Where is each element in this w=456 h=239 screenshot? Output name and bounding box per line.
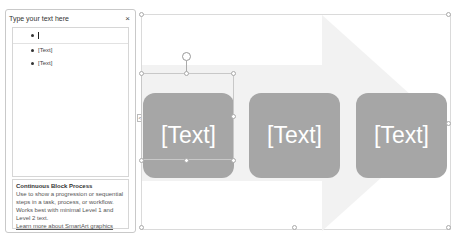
shape-handle-top-left[interactable]	[139, 71, 144, 76]
layout-description: Continuous Block Process Use to show a p…	[12, 179, 129, 229]
text-pane-title: Type your text here	[9, 15, 69, 22]
shape-handle-bottom[interactable]	[184, 158, 189, 163]
list-item[interactable]: [Text]	[31, 60, 52, 66]
shape-handle-top[interactable]	[184, 71, 189, 76]
text-pane-list[interactable]: [Text] [Text]	[12, 27, 129, 177]
resize-handle-top-left[interactable]	[139, 12, 144, 17]
text-pane: Type your text here × [Text] [Text] Cont…	[5, 9, 136, 233]
divider	[13, 43, 128, 44]
list-item-text: [Text]	[38, 47, 52, 53]
shape-handle-bottom-right[interactable]	[231, 158, 236, 163]
rotate-handle-icon[interactable]	[182, 52, 191, 61]
layout-name: Continuous Block Process	[16, 182, 125, 190]
process-block-1[interactable]: [Text]	[143, 93, 234, 178]
resize-handle-bottom-right[interactable]	[446, 225, 451, 230]
resize-handle-bottom-left[interactable]	[139, 225, 144, 230]
bullet-icon	[31, 34, 34, 37]
text-cursor	[38, 32, 39, 39]
shape-handle-bottom-left[interactable]	[139, 158, 144, 163]
process-block-2[interactable]: [Text]	[249, 93, 340, 178]
list-item[interactable]	[31, 32, 39, 39]
bullet-icon	[31, 62, 34, 65]
close-icon[interactable]: ×	[125, 14, 130, 23]
process-block-3[interactable]: [Text]	[356, 93, 447, 178]
resize-handle-right[interactable]	[446, 121, 451, 126]
bullet-icon	[31, 49, 34, 52]
shape-handle-top-right[interactable]	[231, 71, 236, 76]
resize-handle-top-right[interactable]	[446, 12, 451, 17]
list-item[interactable]: [Text]	[31, 47, 52, 53]
learn-more-link[interactable]: Learn more about SmartArt graphics	[16, 222, 125, 231]
resize-handle-bottom[interactable]	[292, 225, 297, 230]
smartart-frame[interactable]: [Text] [Text] [Text]	[141, 14, 451, 230]
list-item-text: [Text]	[38, 60, 52, 66]
shape-handle-right[interactable]	[231, 114, 236, 119]
layout-description-text: Use to show a progression or sequential …	[16, 190, 125, 222]
